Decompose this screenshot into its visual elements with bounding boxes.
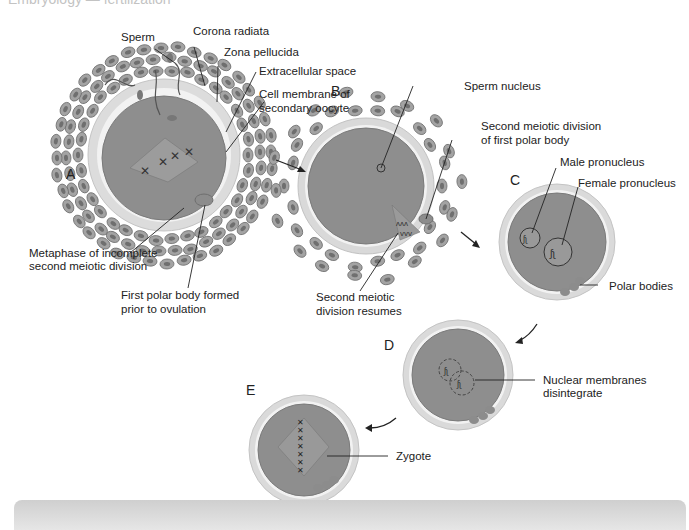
label-sperm-nucleus: Sperm nucleus — [464, 79, 541, 93]
label-polar-bodies: Polar bodies — [609, 279, 673, 293]
stage-label-e: E — [246, 382, 255, 398]
stage-d-zygote: ʃʅ ʃʅ — [403, 320, 513, 430]
label-first-polar-1: First polar body formed — [121, 288, 239, 302]
label-second-div-polar-2: of first polar body — [481, 133, 569, 147]
label-second-div-resumes-2: division resumes — [316, 304, 402, 318]
label-zona-pellucida: Zona pellucida — [224, 45, 299, 59]
caption-bar — [14, 500, 686, 530]
label-second-div-polar-1: Second meiotic division — [481, 119, 601, 133]
label-sperm: Sperm — [121, 30, 155, 44]
svg-text:ᴧᴧᴧ: ᴧᴧᴧ — [396, 219, 408, 228]
label-metaphase-1: Metaphase of incomplete — [29, 246, 158, 260]
svg-text:✕: ✕ — [158, 155, 168, 169]
stage-c-zygote-pronuclei: ʃʅ ʃʅ — [499, 184, 615, 300]
svg-text:✕: ✕ — [170, 149, 180, 163]
stage-label-c: C — [510, 172, 520, 188]
stage-e-zygote: ✕ ✕ ✕ ✕ ✕ ✕ ✕ — [249, 395, 359, 505]
svg-text:✕: ✕ — [140, 164, 150, 178]
svg-text:vvv: vvv — [400, 229, 412, 238]
label-cell-membrane-2: secondary oocyte — [259, 101, 349, 115]
label-zygote: Zygote — [396, 449, 431, 463]
label-metaphase-2: second meiotic division — [29, 259, 147, 273]
stage-a-oocyte: ✕ ✕ ✕ ✕ — [50, 41, 278, 269]
label-female-pronucleus: Female pronucleus — [578, 176, 676, 190]
label-cell-membrane-1: Cell membrane of — [259, 87, 350, 101]
label-corona-radiata: Corona radiata — [193, 24, 269, 38]
svg-text:✕: ✕ — [184, 145, 194, 159]
label-nuclear-membranes-2: disintegrate — [543, 386, 602, 400]
svg-text:✕: ✕ — [297, 466, 304, 475]
label-male-pronucleus: Male pronucleus — [560, 155, 644, 169]
label-first-polar-2: prior to ovulation — [121, 302, 206, 316]
label-extracellular-space: Extracellular space — [259, 64, 356, 78]
stage-label-a: A — [66, 166, 75, 182]
label-second-div-resumes-1: Second meiotic — [316, 290, 395, 304]
stage-label-d: D — [384, 337, 394, 353]
label-nuclear-membranes-1: Nuclear membranes — [543, 373, 647, 387]
